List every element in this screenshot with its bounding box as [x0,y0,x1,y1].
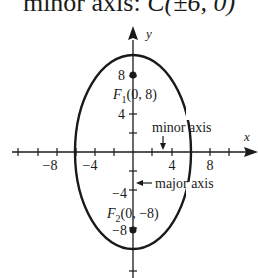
ellipse-diagram: y x −8 −4 4 8 8 4 −4 −8 F1(0, 8) F2(0, −… [0,0,258,278]
x-axis [12,147,258,157]
major-axis-label: major axis [155,176,214,191]
focus-f1-label: F1(0, 8) [112,87,157,105]
x-axis-label: x [243,129,250,144]
svg-text:F1(0, 8): F1(0, 8) [112,87,157,105]
y-tick-label: 4 [118,107,125,122]
y-axis-label: y [144,26,152,41]
y-tick-label: 8 [118,68,125,83]
minor-axis-arrowhead-icon [160,143,166,150]
minor-axis-label: minor axis [152,120,212,135]
x-tick-label: −4 [83,158,98,173]
x-tick-label: 4 [169,158,176,173]
x-tick-label: 8 [207,158,214,173]
y-tick-label: −8 [112,223,127,238]
x-tick-label: −8 [43,158,58,173]
focus-f2-point [130,227,137,234]
x-axis-arrow-icon [244,147,258,157]
y-axis-arrow-icon [128,26,138,40]
y-tick-label: −4 [112,186,127,201]
major-axis-arrowhead-icon [136,180,143,186]
label-gap-top [186,108,196,120]
focus-f1-point [130,72,137,79]
